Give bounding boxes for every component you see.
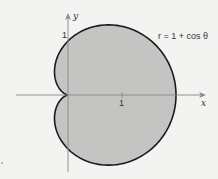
x-axis-label: x <box>201 98 206 108</box>
cardioid-plot: x y 1 1 r = 1 + cos θ <box>0 0 218 179</box>
x-tick-label: 1 <box>119 98 124 108</box>
y-axis-label: y <box>72 11 79 21</box>
stray-mark <box>1 162 3 164</box>
y-tick-label: 1 <box>62 30 67 40</box>
equation-label: r = 1 + cos θ <box>158 31 208 41</box>
